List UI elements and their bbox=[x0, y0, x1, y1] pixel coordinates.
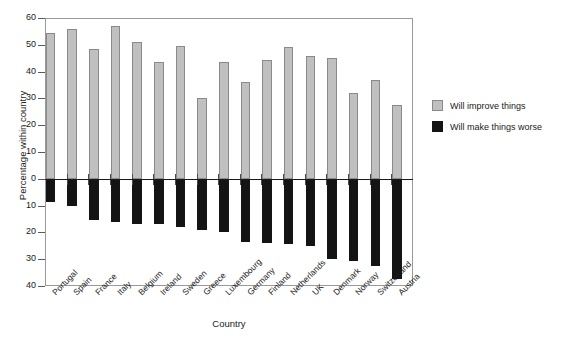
legend-item: Will improve things bbox=[432, 100, 542, 111]
bar-improve bbox=[306, 56, 316, 179]
y-tick bbox=[38, 206, 45, 207]
legend-swatch-worse bbox=[432, 121, 443, 132]
x-tick bbox=[175, 174, 176, 179]
y-tick bbox=[38, 18, 45, 19]
x-tick bbox=[370, 180, 371, 185]
legend-item: Will make things worse bbox=[432, 121, 542, 132]
x-tick bbox=[348, 174, 349, 179]
x-tick bbox=[283, 180, 284, 185]
y-tick-label: 50 bbox=[0, 40, 36, 49]
bar-worse bbox=[241, 179, 251, 242]
x-tick bbox=[153, 180, 154, 185]
y-tick-label: 0 bbox=[0, 174, 36, 183]
y-tick-label: 10 bbox=[0, 147, 36, 156]
zero-line bbox=[45, 179, 413, 180]
x-tick bbox=[132, 174, 133, 179]
legend-swatch-improve bbox=[432, 100, 443, 111]
y-tick bbox=[38, 259, 45, 260]
x-tick bbox=[153, 174, 154, 179]
bar-improve bbox=[284, 47, 294, 178]
x-tick bbox=[110, 174, 111, 179]
x-tick bbox=[67, 180, 68, 185]
y-tick-label: 40 bbox=[0, 281, 36, 290]
y-tick bbox=[38, 98, 45, 99]
bar-improve bbox=[89, 49, 99, 179]
y-tick bbox=[38, 45, 45, 46]
x-tick bbox=[240, 180, 241, 185]
x-tick bbox=[110, 180, 111, 185]
bar-worse bbox=[154, 179, 164, 225]
bar-worse bbox=[176, 179, 186, 227]
x-tick bbox=[283, 174, 284, 179]
x-tick bbox=[348, 180, 349, 185]
x-tick bbox=[261, 174, 262, 179]
bar-improve bbox=[262, 60, 272, 179]
x-tick bbox=[326, 174, 327, 179]
bar-improve bbox=[392, 105, 402, 179]
bar-improve bbox=[349, 93, 359, 179]
x-tick bbox=[175, 180, 176, 185]
bar-improve bbox=[67, 29, 77, 179]
bar-improve bbox=[371, 80, 381, 179]
x-tick bbox=[197, 180, 198, 185]
y-tick bbox=[38, 286, 45, 287]
x-tick bbox=[326, 180, 327, 185]
x-tick bbox=[370, 174, 371, 179]
y-tick-label: 30 bbox=[0, 254, 36, 263]
y-tick-label: 40 bbox=[0, 67, 36, 76]
y-tick-label: 20 bbox=[0, 120, 36, 129]
bar-worse bbox=[306, 179, 316, 246]
bars-layer bbox=[45, 18, 413, 286]
bar-worse bbox=[327, 179, 337, 259]
x-tick bbox=[88, 174, 89, 179]
y-tick-label: 20 bbox=[0, 227, 36, 236]
y-tick-label: 30 bbox=[0, 93, 36, 102]
bar-worse bbox=[111, 179, 121, 222]
bar-worse bbox=[46, 179, 56, 202]
x-tick bbox=[67, 174, 68, 179]
bar-improve bbox=[176, 46, 186, 179]
bar-chart: Percentage within country 60504030201001… bbox=[0, 0, 561, 340]
x-axis-title: Country bbox=[0, 318, 458, 329]
x-tick bbox=[391, 174, 392, 179]
bar-worse bbox=[284, 179, 294, 245]
y-tick-label: 60 bbox=[0, 13, 36, 22]
y-tick bbox=[38, 152, 45, 153]
bar-worse bbox=[89, 179, 99, 221]
y-tick bbox=[38, 125, 45, 126]
bar-worse bbox=[349, 179, 359, 261]
bar-improve bbox=[241, 82, 251, 178]
x-tick bbox=[391, 180, 392, 185]
bar-improve bbox=[132, 42, 142, 179]
x-tick bbox=[132, 180, 133, 185]
bar-improve bbox=[219, 62, 229, 179]
x-tick bbox=[261, 180, 262, 185]
x-tick bbox=[88, 180, 89, 185]
legend-label: Will make things worse bbox=[450, 122, 542, 132]
bar-worse bbox=[219, 179, 229, 233]
y-tick-label: 10 bbox=[0, 201, 36, 210]
y-tick bbox=[38, 179, 45, 180]
bar-improve bbox=[197, 98, 207, 178]
bar-worse bbox=[262, 179, 272, 243]
legend-label: Will improve things bbox=[450, 101, 526, 111]
bar-worse bbox=[371, 179, 381, 266]
x-tick bbox=[240, 174, 241, 179]
y-tick bbox=[38, 72, 45, 73]
bar-worse bbox=[67, 179, 77, 206]
bar-improve bbox=[111, 26, 121, 179]
x-tick bbox=[218, 174, 219, 179]
chart-legend: Will improve thingsWill make things wors… bbox=[432, 100, 542, 142]
bar-improve bbox=[46, 33, 56, 179]
x-tick bbox=[197, 174, 198, 179]
bar-worse bbox=[132, 179, 142, 225]
bar-improve bbox=[327, 58, 337, 179]
x-tick bbox=[305, 174, 306, 179]
x-tick bbox=[218, 180, 219, 185]
y-tick bbox=[38, 232, 45, 233]
bar-worse bbox=[197, 179, 207, 230]
bar-improve bbox=[154, 62, 164, 179]
x-tick bbox=[305, 180, 306, 185]
